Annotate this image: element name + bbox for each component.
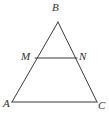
vertex-label-a: A	[3, 98, 10, 109]
vertex-label-m: M	[21, 51, 30, 62]
vertex-label-c: C	[98, 100, 105, 111]
vertex-label-b: B	[52, 2, 59, 13]
geometry-figure: B M N A C	[0, 0, 109, 120]
segment-BC	[58, 22, 97, 102]
segment-AB	[12, 22, 58, 102]
vertex-label-n: N	[79, 51, 86, 62]
triangle-diagram-svg	[0, 0, 109, 120]
